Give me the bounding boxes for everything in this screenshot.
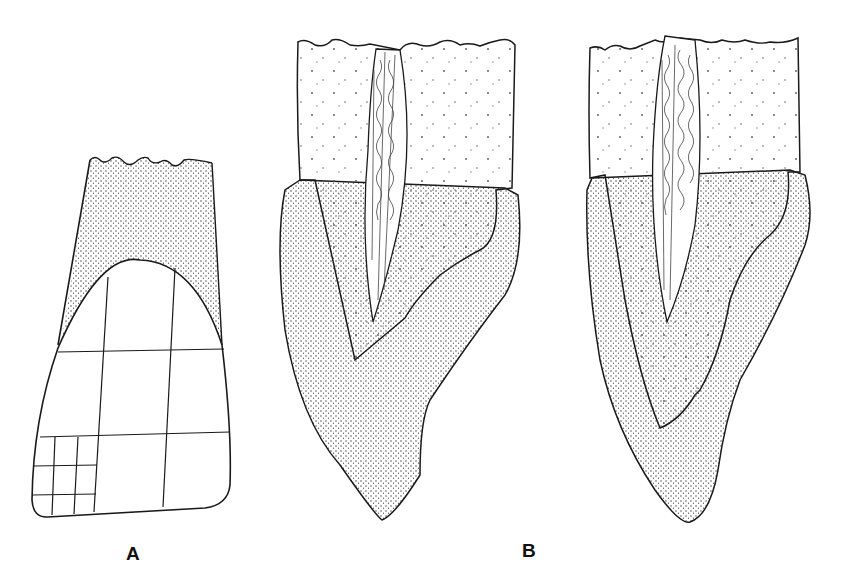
tooth-diagram [0,0,854,587]
panel-label-a: A [126,543,140,565]
panel-a-tooth [32,157,230,517]
panel-b-tooth-left [280,40,520,520]
panel-b-tooth-right [587,36,810,522]
panel-label-b: B [522,540,536,562]
